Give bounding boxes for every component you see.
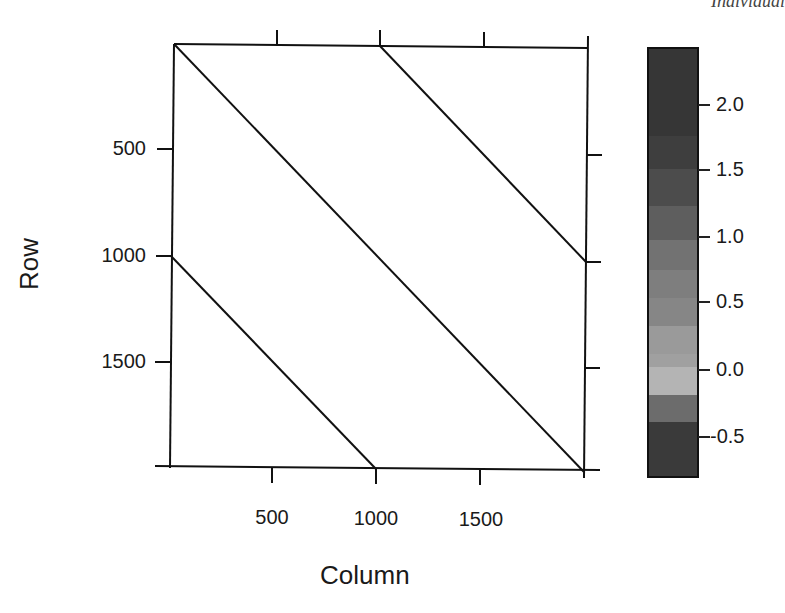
x-tick-label: 1500: [441, 508, 521, 531]
y-tick-label: 1500: [66, 350, 146, 373]
colorbar: [648, 48, 710, 477]
y-tick-label: 1000: [66, 244, 146, 267]
colorbar-tick-label: 2.0: [716, 93, 744, 116]
colorbar-tick-label: 0.0: [716, 358, 744, 381]
colorbar-tick-label: 1.5: [716, 158, 744, 181]
line-upper-diagonal: [380, 46, 586, 262]
colorbar-tick-label: 1.0: [716, 225, 744, 248]
colorbar-tick-label: -0.5: [710, 425, 744, 448]
line-main-diagonal: [174, 44, 584, 472]
line-lower-diagonal: [171, 256, 376, 469]
y-tick-label: 500: [66, 137, 146, 160]
contour-lines: [171, 44, 586, 472]
x-axis-label: Column: [320, 560, 410, 591]
chart-title: Individual: [711, 0, 785, 12]
colorbar-tick-label: 0.5: [716, 290, 744, 313]
y-axis-label: Row: [14, 238, 45, 290]
x-tick-label: 1000: [336, 507, 416, 530]
x-tick-label: 500: [232, 506, 312, 529]
